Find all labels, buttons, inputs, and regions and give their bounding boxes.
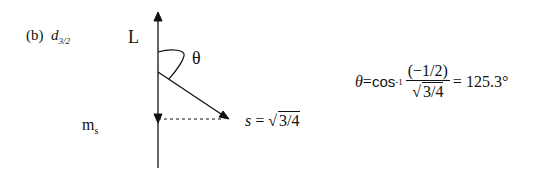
spin-vector-line [158,72,224,116]
vector-diagram [0,0,535,171]
L-up-arrow-icon [154,12,162,21]
spin-arrow-head-icon [219,111,229,119]
